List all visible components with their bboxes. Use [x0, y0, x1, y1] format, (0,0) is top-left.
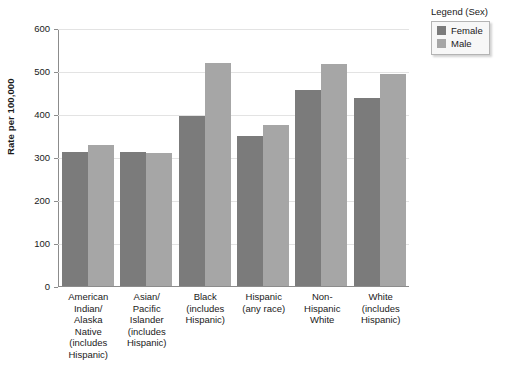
x-tick-label-line: Hispanic): [60, 349, 117, 361]
x-tick-label-line: American: [60, 291, 117, 303]
bar-female[interactable]: [120, 152, 146, 286]
x-tick-label-line: Pacific: [119, 303, 176, 315]
bar-male[interactable]: [263, 125, 289, 286]
plot-area: 0100200300400500600: [58, 29, 409, 287]
y-tick-mark: [54, 72, 58, 73]
x-tick-label-line: (includes: [60, 337, 117, 349]
legend-entry-female[interactable]: Female: [437, 26, 483, 36]
bar-series-container: [59, 29, 409, 286]
x-tick-label-line: Islander: [119, 314, 176, 326]
bar-male[interactable]: [205, 63, 231, 286]
y-tick-mark: [54, 201, 58, 202]
bar-male[interactable]: [146, 153, 172, 286]
bar-female[interactable]: [237, 136, 263, 286]
legend-swatch-icon: [437, 39, 446, 48]
x-tick-label: White(includesHispanic): [352, 291, 411, 361]
x-tick-label-line: Hispanic): [119, 337, 176, 349]
x-tick-label-line: Non-Hispanic: [294, 291, 351, 314]
bar-group: [351, 29, 409, 286]
y-axis-title: Rate per 100,000: [6, 141, 16, 155]
legend-box: FemaleMale: [431, 21, 490, 55]
bar-female[interactable]: [179, 116, 205, 286]
y-tick-mark: [54, 29, 58, 30]
legend-swatch-icon: [437, 26, 446, 35]
bar-group: [176, 29, 234, 286]
gridline: [58, 287, 409, 288]
y-tick-label: 200: [34, 196, 50, 206]
x-axis-tick-labels: AmericanIndian/AlaskaNative(includesHisp…: [59, 291, 410, 361]
x-tick-label-line: (includes: [177, 303, 234, 315]
y-tick-label: 100: [34, 239, 50, 249]
x-tick-label-line: Hispanic): [177, 314, 234, 326]
legend-entry-label: Female: [451, 26, 483, 36]
bar-female[interactable]: [354, 98, 380, 286]
x-tick-label-line: Native: [60, 326, 117, 338]
x-tick-label: AmericanIndian/AlaskaNative(includesHisp…: [59, 291, 118, 361]
x-tick-label-line: Hispanic: [236, 291, 293, 303]
x-tick-label: Black(includesHispanic): [176, 291, 235, 361]
y-tick-mark: [54, 244, 58, 245]
legend-title: Legend (Sex): [431, 7, 490, 17]
y-tick-mark: [54, 115, 58, 116]
bar-group: [59, 29, 117, 286]
x-tick-label-line: Asian/: [119, 291, 176, 303]
x-tick-label-line: White: [294, 314, 351, 326]
legend-entry-label: Male: [451, 39, 472, 49]
y-tick-mark: [54, 158, 58, 159]
legend-entry-male[interactable]: Male: [437, 39, 483, 49]
y-tick-label: 600: [34, 24, 50, 34]
bar-group: [234, 29, 292, 286]
bar-group: [117, 29, 175, 286]
x-tick-label-line: (includes: [353, 303, 410, 315]
x-tick-label-line: Black: [177, 291, 234, 303]
bar-female[interactable]: [295, 90, 321, 286]
bar-chart-figure: Rate per 100,000 0100200300400500600 Ame…: [0, 0, 515, 368]
x-tick-label: Asian/PacificIslander(includesHispanic): [118, 291, 177, 361]
x-tick-label: Non-HispanicWhite: [293, 291, 352, 361]
x-tick-label-line: White: [353, 291, 410, 303]
x-tick-label: Hispanic(any race): [235, 291, 294, 361]
y-tick-label: 500: [34, 67, 50, 77]
bar-male[interactable]: [88, 145, 114, 286]
bar-male[interactable]: [321, 64, 347, 286]
x-tick-label-line: Alaska: [60, 314, 117, 326]
y-tick-label: 300: [34, 153, 50, 163]
x-tick-label-line: Indian/: [60, 303, 117, 315]
bar-male[interactable]: [380, 74, 406, 286]
x-tick-label-line: (any race): [236, 303, 293, 315]
bar-female[interactable]: [62, 152, 88, 286]
x-tick-label-line: Hispanic): [353, 314, 410, 326]
bar-group: [292, 29, 350, 286]
y-tick-mark: [54, 287, 58, 288]
y-tick-label: 0: [45, 282, 50, 292]
y-tick-label: 400: [34, 110, 50, 120]
x-tick-label-line: (includes: [119, 326, 176, 338]
legend: Legend (Sex) FemaleMale: [431, 7, 490, 55]
